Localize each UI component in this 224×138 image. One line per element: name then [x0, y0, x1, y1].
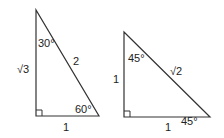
angle-label-45-top: 45°	[128, 52, 145, 64]
side-label-vertical-1: 1	[113, 73, 119, 85]
angle-label-60: 60°	[75, 103, 92, 115]
triangle-45-45-90: 45° 45° 1 √2 1	[113, 32, 210, 133]
diagram-canvas: 30° 60° √3 2 1 45° 45° 1 √2 1	[0, 0, 224, 138]
side-label-base-1: 1	[63, 121, 69, 133]
triangle-30-60-90-shape	[36, 10, 99, 116]
right-angle-marker	[36, 110, 42, 116]
triangle-45-45-90-shape	[124, 32, 210, 117]
angle-label-45-bottom: 45°	[181, 115, 198, 127]
angle-label-30: 30°	[38, 37, 55, 49]
triangle-30-60-90: 30° 60° √3 2 1	[17, 10, 99, 133]
side-label-base-1: 1	[165, 121, 171, 133]
side-label-sqrt2: √2	[170, 65, 182, 77]
side-label-sqrt3: √3	[17, 63, 29, 75]
side-label-hypotenuse-2: 2	[73, 55, 79, 67]
right-angle-marker	[124, 111, 130, 117]
